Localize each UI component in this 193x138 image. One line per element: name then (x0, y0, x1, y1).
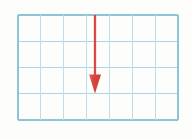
figure-svg (0, 0, 193, 138)
figure-background (0, 0, 193, 138)
arrow-shaft (94, 15, 97, 76)
figure-canvas (0, 0, 193, 138)
